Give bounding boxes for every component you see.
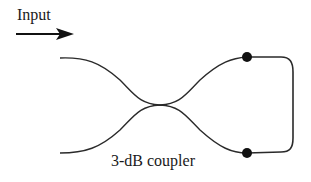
upper-port-dot-icon (242, 52, 252, 62)
lower-fiber (60, 105, 247, 153)
fiber-loop (247, 57, 293, 153)
upper-fiber (60, 57, 247, 105)
coupler-label: 3-dB coupler (111, 152, 196, 170)
input-arrow-icon (16, 28, 74, 40)
fiber-loop-mirror-diagram: Input 3-dB coupler (0, 0, 311, 182)
lower-port-dot-icon (242, 148, 252, 158)
input-label: Input (17, 6, 51, 24)
